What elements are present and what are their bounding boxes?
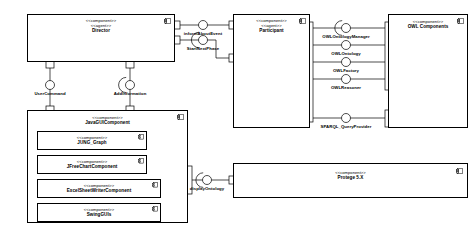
component-name: ExcelSheetWriterComponent [38, 188, 160, 193]
component-icon [457, 18, 464, 24]
component-name: JavaGUIComponent [28, 120, 187, 125]
component-icon [138, 134, 144, 140]
component-icon [164, 18, 171, 24]
interface-label-owl-reasoner: OWLReasoner [306, 85, 386, 90]
component-participant[interactable]: <<component>> <<agent>> Participant [233, 14, 310, 128]
component-jung-graph[interactable]: <<component>> JUNG_Graph [37, 131, 147, 150]
component-icon [456, 168, 463, 174]
component-name: SwingGUIs [38, 212, 160, 217]
component-name: Director [28, 28, 174, 33]
interface-label-owl-factory: OWLFactory [306, 68, 386, 73]
component-owl-components[interactable]: <<component>> OWL Components [388, 14, 468, 128]
component-icon [138, 158, 144, 164]
component-protege[interactable]: <<component>> Protege 5.X [233, 163, 468, 198]
component-icon [152, 182, 158, 188]
component-name: OWL Components [389, 24, 467, 29]
component-swing-guis[interactable]: <<component>> SwingGUIs [37, 203, 161, 222]
component-java-gui-component[interactable]: <<component>> JavaGUIComponent <<compone… [27, 110, 188, 223]
interface-label-user-command: UserCommand [10, 91, 90, 96]
interface-label-sparql-query-provider: SPARQL_QueryProvider [306, 124, 386, 129]
component-name: JFreeChartComponent [38, 164, 146, 169]
component-icon [299, 18, 306, 24]
component-icon [177, 114, 184, 120]
interface-label-inform-about-event: informAboutEvent [163, 31, 243, 36]
component-name: Participant [234, 28, 309, 33]
interface-label-start-next-phase: StartNextPhase [163, 46, 243, 51]
interface-label-add-information: AddInformation [90, 91, 170, 96]
interface-label-display-ontology: displayOntology [167, 186, 247, 191]
component-excelsheetwriter[interactable]: <<component>> ExcelSheetWriterComponent [37, 179, 161, 198]
component-icon [152, 206, 158, 212]
component-director[interactable]: <<component>> <<agent>> Director [27, 14, 175, 62]
component-name: Protege 5.X [234, 175, 467, 180]
component-diagram-canvas: <<component>> <<agent>> Director <<compo… [0, 0, 476, 235]
interface-label-owl-ontology: OWLOntology [306, 51, 386, 56]
component-name: JUNG_Graph [38, 140, 146, 145]
interface-label-owl-ontology-manager: OWLOntologyManager [306, 34, 386, 39]
component-jfreechart-component[interactable]: <<component>> JFreeChartComponent [37, 155, 147, 174]
